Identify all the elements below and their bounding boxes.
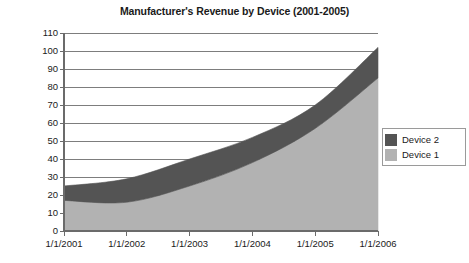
y-axis-tick-label: 0: [32, 226, 58, 236]
y-axis-tick-label: 50: [32, 136, 58, 146]
y-axis-tick-label: 90: [32, 64, 58, 74]
x-axis-tick-label: 1/1/2006: [343, 238, 413, 249]
y-axis-tick-label: 110: [32, 28, 58, 38]
series-areas: [64, 47, 378, 231]
x-axis-tick-label: 1/1/2003: [155, 238, 225, 249]
plot-area: [64, 33, 378, 231]
y-axis-tick-label: 30: [32, 172, 58, 182]
x-axis-tick-label: 1/1/2001: [29, 238, 99, 249]
y-axis-tick-label: 100: [32, 46, 58, 56]
legend-swatch-icon: [385, 134, 397, 146]
y-axis-tick-labels: 1101009080706050403020100: [30, 0, 58, 263]
x-axis-tick-label: 1/1/2004: [217, 238, 287, 249]
x-axis-tick-label: 1/1/2002: [92, 238, 162, 249]
y-axis-tick-label: 10: [32, 208, 58, 218]
legend-item: Device 2: [385, 132, 462, 147]
legend-item: Device 1: [385, 147, 462, 162]
legend-label: Device 1: [402, 149, 439, 160]
y-axis-tick-label: 70: [32, 100, 58, 110]
chart-title: Manufacturer's Revenue by Device (2001-2…: [0, 5, 469, 17]
x-axis-ticks: [64, 231, 378, 236]
legend-label: Device 2: [402, 134, 439, 145]
y-axis-tick-label: 40: [32, 154, 58, 164]
x-axis-tick-label: 1/1/2005: [280, 238, 350, 249]
y-axis-tick-label: 60: [32, 118, 58, 128]
y-axis-tick-label: 80: [32, 82, 58, 92]
chart-legend: Device 2Device 1: [382, 128, 466, 166]
y-axis-tick-label: 20: [32, 190, 58, 200]
chart-container: Manufacturer's Revenue by Device (2001-2…: [0, 0, 469, 263]
legend-swatch-icon: [385, 149, 397, 161]
area-chart-svg: [64, 33, 378, 231]
